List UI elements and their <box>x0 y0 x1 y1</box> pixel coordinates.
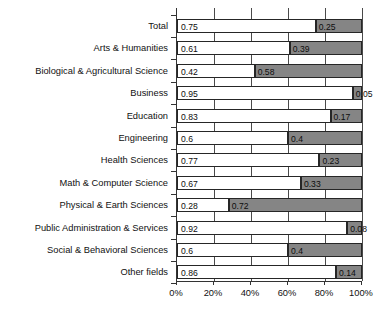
bar-value-label: 0.61 <box>181 43 198 55</box>
x-axis-tick-labels: 0%20%40%60%80%100% <box>0 287 385 303</box>
bar-segment-primary: 0.95 <box>177 86 353 100</box>
bar-segment-primary: 0.61 <box>177 41 290 55</box>
bar-segment-secondary: 0.05 <box>353 86 362 100</box>
y-axis-tick <box>171 104 176 105</box>
bar-segment-secondary: 0.39 <box>290 41 362 55</box>
y-axis-tick <box>171 15 176 16</box>
x-axis-tick <box>361 281 362 285</box>
bar-segment-primary: 0.92 <box>177 221 347 235</box>
bar-segment-secondary: 0.14 <box>336 265 362 279</box>
bar-value-label: 0.14 <box>339 267 356 279</box>
x-axis-tick-label: 60% <box>278 287 297 299</box>
category-label: Engineering <box>0 133 168 143</box>
category-label: Biological & Agricultural Science <box>0 66 168 76</box>
y-axis-tick <box>171 171 176 172</box>
bar-value-label: 0.95 <box>181 88 198 100</box>
bar-segment-primary: 0.75 <box>177 19 316 33</box>
bar-value-label: 0.75 <box>181 21 198 33</box>
x-axis-tick <box>324 281 325 285</box>
category-label: Education <box>0 111 168 121</box>
stacked-bar-chart: TotalArts & HumanitiesBiological & Agric… <box>0 0 385 309</box>
x-axis-tick-label: 20% <box>204 287 223 299</box>
bar-value-label: 0.25 <box>319 21 336 33</box>
y-axis-tick <box>171 283 176 284</box>
x-axis-tick-label: 0% <box>169 287 182 299</box>
bar-value-label: 0.42 <box>181 66 198 78</box>
bar-value-label: 0.08 <box>350 223 367 235</box>
bar-value-label: 0.86 <box>181 267 198 279</box>
category-label: Math & Computer Science <box>0 178 168 188</box>
bar-segment-primary: 0.6 <box>177 131 288 145</box>
bar-segment-secondary: 0.4 <box>288 131 362 145</box>
bar-value-label: 0.67 <box>181 178 198 190</box>
category-label: Public Administration & Services <box>0 223 168 233</box>
bar-segment-primary: 0.83 <box>177 109 331 123</box>
bar-segment-secondary: 0.23 <box>319 153 362 167</box>
y-axis-tick <box>171 82 176 83</box>
bar-row: 0.60.4 <box>177 243 362 257</box>
x-axis-tick-label: 40% <box>241 287 260 299</box>
x-axis-tick <box>213 281 214 285</box>
bar-row: 0.750.25 <box>177 19 362 33</box>
category-label: Total <box>0 21 168 31</box>
bar-row: 0.920.08 <box>177 221 362 235</box>
bar-segment-secondary: 0.58 <box>255 64 362 78</box>
bar-value-label: 0.83 <box>181 111 198 123</box>
bar-segment-secondary: 0.08 <box>347 221 362 235</box>
x-axis-tick-label: 80% <box>315 287 334 299</box>
category-label: Arts & Humanities <box>0 43 168 53</box>
category-label: Social & Behavioral Sciences <box>0 245 168 255</box>
bar-value-label: 0.77 <box>181 155 198 167</box>
y-axis-tick <box>171 149 176 150</box>
bar-value-label: 0.92 <box>181 223 198 235</box>
bar-row: 0.830.17 <box>177 109 362 123</box>
bar-value-label: 0.17 <box>334 111 351 123</box>
bar-segment-primary: 0.28 <box>177 198 229 212</box>
bar-segment-primary: 0.42 <box>177 64 255 78</box>
bar-value-label: 0.4 <box>291 245 303 257</box>
bar-value-label: 0.4 <box>291 133 303 145</box>
bar-segment-primary: 0.6 <box>177 243 288 257</box>
bar-value-label: 0.58 <box>258 66 275 78</box>
y-axis-tick <box>171 216 176 217</box>
y-axis-tick <box>171 261 176 262</box>
gridline <box>362 8 363 281</box>
bar-value-label: 0.05 <box>356 88 373 100</box>
bar-value-label: 0.39 <box>293 43 310 55</box>
bar-row: 0.860.14 <box>177 265 362 279</box>
x-axis-tick <box>287 281 288 285</box>
bar-row: 0.610.39 <box>177 41 362 55</box>
category-label: Health Sciences <box>0 155 168 165</box>
bar-segment-secondary: 0.33 <box>301 176 362 190</box>
bar-row: 0.60.4 <box>177 131 362 145</box>
bar-value-label: 0.72 <box>232 200 249 212</box>
plot-area: 0.750.250.610.390.420.580.950.050.830.17… <box>176 8 362 281</box>
y-axis-tick <box>171 37 176 38</box>
bar-row: 0.420.58 <box>177 64 362 78</box>
bar-row: 0.670.33 <box>177 176 362 190</box>
y-axis-tick <box>171 194 176 195</box>
x-axis-tick-label: 100% <box>349 287 373 299</box>
bar-value-label: 0.6 <box>181 245 193 257</box>
x-axis-line <box>176 281 361 282</box>
bar-value-label: 0.28 <box>181 200 198 212</box>
category-label: Other fields <box>0 267 168 277</box>
y-axis-tick <box>171 239 176 240</box>
x-axis-tick <box>250 281 251 285</box>
bar-value-label: 0.6 <box>181 133 193 145</box>
bar-segment-secondary: 0.17 <box>331 109 362 123</box>
bar-segment-primary: 0.77 <box>177 153 319 167</box>
bar-segment-primary: 0.86 <box>177 265 336 279</box>
category-axis-labels: TotalArts & HumanitiesBiological & Agric… <box>0 0 172 281</box>
x-axis-tick <box>176 281 177 285</box>
category-label: Business <box>0 88 168 98</box>
y-axis-tick <box>171 127 176 128</box>
category-label: Physical & Earth Sciences <box>0 200 168 210</box>
bar-value-label: 0.23 <box>322 155 339 167</box>
bar-segment-secondary: 0.25 <box>316 19 362 33</box>
bar-row: 0.280.72 <box>177 198 362 212</box>
bar-segment-secondary: 0.4 <box>288 243 362 257</box>
bar-row: 0.950.05 <box>177 86 362 100</box>
bar-segment-primary: 0.67 <box>177 176 301 190</box>
y-axis-tick <box>171 59 176 60</box>
